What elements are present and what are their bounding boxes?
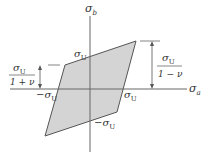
right-dim-arrow-down-icon	[150, 84, 154, 89]
right-dim-arrow-up-icon	[150, 41, 154, 46]
left-dim-arrow-up-icon	[38, 65, 42, 70]
left-dim-numerator: σU	[13, 62, 26, 76]
yield-surface-diagram: σb σa σU σU −σU −σU σU 1 + ν σU 1 − ν	[0, 0, 203, 158]
intercept-bottom-label: −σU	[94, 117, 115, 131]
right-dim-denominator: 1 − ν	[158, 69, 183, 79]
intercept-right-label: σU	[124, 89, 137, 103]
vertical-axis-label: σb	[85, 2, 98, 17]
left-dim-denominator: 1 + ν	[10, 77, 35, 87]
right-dim-numerator: σU	[162, 52, 175, 66]
intercept-left-label: −σU	[36, 89, 57, 103]
horizontal-axis-label: σa	[189, 82, 201, 97]
intercept-top-label: σU	[74, 48, 87, 62]
